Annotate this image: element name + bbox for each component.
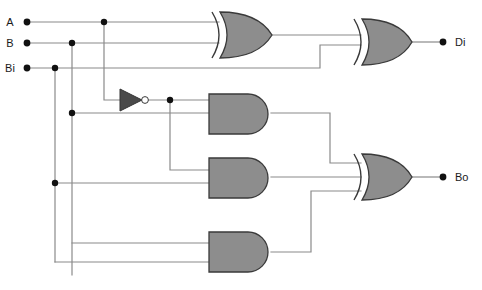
wire-and3-to-or1 bbox=[271, 191, 361, 252]
terminal-dot-bi[interactable] bbox=[24, 65, 31, 72]
junction-dot-bi-tap bbox=[52, 65, 58, 71]
input-label-a: A bbox=[6, 16, 14, 28]
gate-xor2[interactable] bbox=[354, 19, 412, 65]
gate-and1[interactable] bbox=[209, 94, 268, 134]
terminal-dot-a[interactable] bbox=[24, 19, 31, 26]
junction-dot-a-tap bbox=[101, 19, 107, 25]
gate-and2[interactable] bbox=[209, 158, 268, 198]
circuit-canvas: A B Bi Di Bo bbox=[0, 0, 482, 290]
or1-body bbox=[362, 154, 412, 200]
logic-circuit-diagram: A B Bi Di Bo bbox=[0, 0, 482, 290]
gate-and3[interactable] bbox=[209, 232, 268, 272]
wire-bi-to-xor2 bbox=[27, 45, 361, 68]
terminal-dot-bo[interactable] bbox=[440, 174, 447, 181]
input-label-bi: Bi bbox=[5, 62, 15, 74]
and1-body bbox=[209, 94, 268, 134]
xor2-body bbox=[362, 19, 412, 65]
xor1-body bbox=[220, 12, 272, 58]
terminal-dot-b[interactable] bbox=[24, 40, 31, 47]
terminal-dot-di[interactable] bbox=[440, 39, 447, 46]
and3-body bbox=[209, 232, 268, 272]
wire-and1-to-or1 bbox=[271, 113, 361, 163]
junction-dot-not-out bbox=[167, 97, 173, 103]
gate-not1[interactable] bbox=[120, 89, 148, 111]
junction-layer bbox=[52, 19, 173, 186]
junction-dot-b-tap bbox=[69, 40, 75, 46]
xor1-input-arc bbox=[212, 12, 219, 58]
input-label-b: B bbox=[6, 37, 13, 49]
junction-dot-b-down bbox=[69, 110, 75, 116]
gate-or1[interactable] bbox=[354, 154, 412, 200]
wire-not-out-vertical bbox=[170, 100, 209, 170]
gate-xor1[interactable] bbox=[212, 12, 272, 58]
output-label-bo: Bo bbox=[455, 171, 468, 183]
xor2-input-arc bbox=[354, 19, 361, 65]
wire-a-tap-to-inverter bbox=[104, 22, 120, 100]
not1-triangle bbox=[120, 89, 142, 111]
junction-dot-bi-down bbox=[52, 180, 58, 186]
not1-bubble bbox=[142, 97, 149, 104]
and2-body bbox=[209, 158, 268, 198]
output-label-di: Di bbox=[455, 36, 465, 48]
